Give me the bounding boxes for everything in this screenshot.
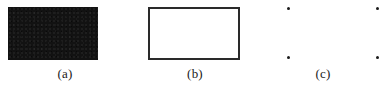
figure-panel-c: (c) [260, 0, 386, 89]
filled-rectangle-shape [8, 7, 98, 60]
figure-panel-b: (b) [130, 0, 260, 89]
corner-point-bottom-right [376, 56, 379, 59]
corner-point-top-right [376, 7, 379, 10]
panel-caption-b: (b) [130, 65, 274, 83]
panel-caption-c: (c) [260, 65, 386, 83]
corner-point-bottom-left [287, 56, 290, 59]
outlined-rectangle-shape [148, 7, 240, 60]
figure-panel-row: (a) (b) (c) [0, 0, 386, 89]
corner-point-top-left [287, 7, 290, 10]
figure-panel-a: (a) [0, 0, 130, 89]
